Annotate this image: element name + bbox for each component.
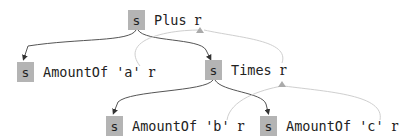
edge-amount-b-return [227,86,282,120]
node-amount-a-sbox[interactable]: s [17,62,34,82]
edge-times-to-amount-b [114,80,213,112]
node-amount-c[interactable]: s AmountOf 'c' r [260,116,398,136]
node-amount-a-rmark[interactable]: r [149,64,156,80]
node-amount-c-sbox[interactable]: s [260,116,277,136]
edge-times-to-amount-c [215,80,268,112]
node-times-rmark[interactable]: r [280,62,287,78]
node-amount-b-rmark[interactable]: r [238,118,245,134]
node-plus-label: Plus [154,12,187,28]
node-times-label: Times [231,62,272,78]
node-amount-a-label: AmountOf 'a' [43,64,141,80]
edge-times-return [204,30,283,63]
edge-plus-to-times [138,30,210,58]
edge-plus-to-amount-a [24,30,136,58]
node-plus-sbox[interactable]: s [128,10,145,30]
node-amount-a[interactable]: s AmountOf 'a' r [17,62,155,82]
node-plus[interactable]: s Plus r [128,10,201,30]
node-plus-rmark[interactable]: r [195,12,202,28]
times-return-triangle [278,81,286,87]
node-amount-b-sbox[interactable]: s [106,116,123,136]
edge-amount-c-return [284,86,380,120]
node-amount-b[interactable]: s AmountOf 'b' r [106,116,244,136]
node-amount-c-label: AmountOf 'c' [286,118,384,134]
node-times-sbox[interactable]: s [205,60,222,80]
node-amount-c-rmark[interactable]: r [392,118,399,134]
node-amount-b-label: AmountOf 'b' [132,118,230,134]
edge-amount-a-return [135,30,200,66]
node-times[interactable]: s Times r [205,60,286,80]
